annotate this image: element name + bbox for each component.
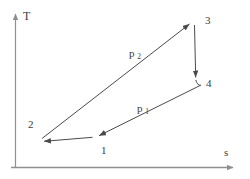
- isobar-p1-subscript: 1: [145, 107, 149, 116]
- ts-diagram-canvas: T s 1 2 3 4 p 2 p 1: [0, 0, 250, 179]
- isobar-p1-base: p: [137, 102, 143, 114]
- isobar-p2-subscript: 2: [137, 52, 141, 61]
- process-corner-4: [196, 80, 201, 85]
- y-axis-label: T: [23, 9, 31, 23]
- ts-diagram: T s 1 2 3 4 p 2 p 1: [0, 0, 250, 179]
- process-line-1-2: [44, 137, 93, 141]
- process-line-4-1: [99, 85, 201, 135]
- process-line-2-3: [42, 24, 190, 139]
- state-point-label-1: 1: [101, 144, 107, 156]
- isobar-label-p2: p 2: [129, 47, 141, 61]
- process-line-3-4: [195, 25, 196, 78]
- state-point-label-4: 4: [206, 77, 212, 89]
- state-point-label-3: 3: [205, 14, 211, 26]
- state-point-label-2: 2: [28, 118, 34, 130]
- isobar-label-p1: p 1: [137, 102, 149, 116]
- isobar-p2-base: p: [129, 47, 135, 59]
- x-axis-label: s: [224, 146, 228, 158]
